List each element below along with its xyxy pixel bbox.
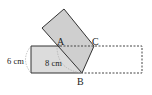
label-b: B (77, 76, 84, 87)
label-c: C (92, 36, 99, 47)
label-a: A (57, 36, 65, 47)
label-height: 6 cm (7, 56, 24, 66)
height-dimension-arc (26, 46, 32, 73)
label-segment: 8 cm (45, 58, 62, 68)
folded-rectangle-diagram: A C B 6 cm 8 cm (0, 0, 152, 95)
